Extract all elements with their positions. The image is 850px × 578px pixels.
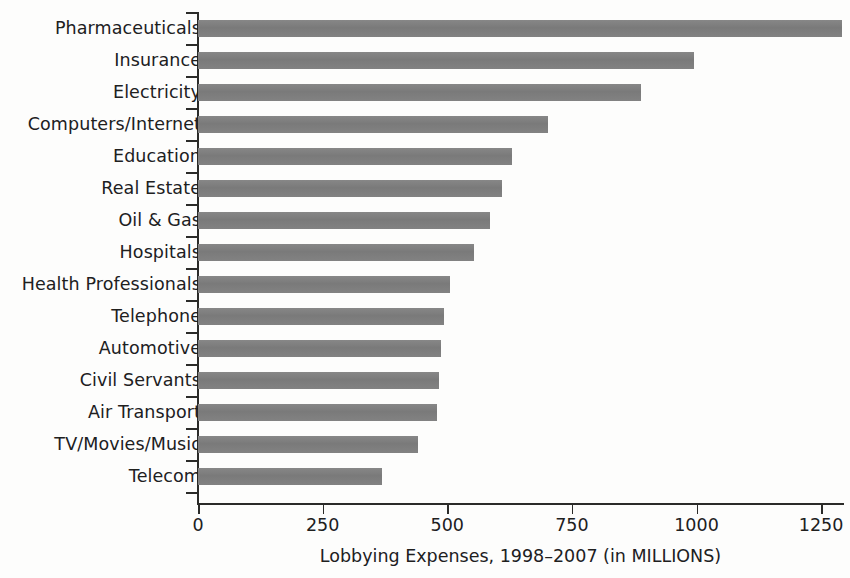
y-axis-tick — [186, 44, 198, 46]
y-axis-tick — [186, 236, 198, 238]
bar — [198, 52, 694, 69]
x-axis-tick — [697, 503, 699, 514]
y-axis-tick — [186, 396, 198, 398]
bar — [198, 468, 382, 485]
y-axis-tick — [186, 492, 198, 494]
category-label: Pharmaceuticals — [55, 12, 201, 44]
category-label: Insurance — [114, 44, 201, 76]
bar-row: Oil & Gas — [0, 204, 850, 236]
y-axis-tick — [186, 300, 198, 302]
x-axis-tick — [447, 503, 449, 514]
bar — [198, 212, 490, 229]
y-axis-tick — [186, 428, 198, 430]
y-axis-tick — [186, 76, 198, 78]
category-label: Electricity — [113, 76, 201, 108]
category-label: Computers/Internet — [28, 108, 201, 140]
bar-row: Telecom — [0, 460, 850, 492]
bar — [198, 244, 474, 261]
bar — [198, 148, 512, 165]
category-label: Automotive — [99, 332, 201, 364]
y-axis-tick — [186, 108, 198, 110]
bar-row: Computers/Internet — [0, 108, 850, 140]
category-label: Air Transport — [88, 396, 201, 428]
bar — [198, 116, 548, 133]
x-axis-tick-label: 750 — [555, 515, 588, 535]
category-label: Real Estate — [101, 172, 201, 204]
bar — [198, 436, 418, 453]
lobbying-expenses-bar-chart: PharmaceuticalsInsuranceElectricityCompu… — [0, 0, 850, 578]
bar-row: Education — [0, 140, 850, 172]
bar-row: Electricity — [0, 76, 850, 108]
category-label: Civil Servants — [80, 364, 201, 396]
x-axis-tick — [198, 503, 200, 514]
x-axis-tick — [821, 503, 823, 514]
bar — [198, 84, 641, 101]
plot-area: PharmaceuticalsInsuranceElectricityCompu… — [0, 0, 850, 578]
x-axis-tick-label: 500 — [431, 515, 464, 535]
bar — [198, 340, 441, 357]
category-label: Education — [113, 140, 201, 172]
y-axis-tick — [186, 172, 198, 174]
bar-row: Insurance — [0, 44, 850, 76]
y-axis-tick — [186, 12, 198, 14]
x-axis-tick — [572, 503, 574, 514]
y-axis-tick — [186, 268, 198, 270]
category-label: Oil & Gas — [118, 204, 201, 236]
bar — [198, 404, 437, 421]
bar — [198, 308, 444, 325]
bar-row: Automotive — [0, 332, 850, 364]
y-axis-tick — [186, 204, 198, 206]
x-axis-title: Lobbying Expenses, 1998–2007 (in MILLION… — [197, 546, 844, 566]
category-label: Telecom — [129, 460, 201, 492]
x-axis-line — [197, 503, 844, 505]
bar — [198, 180, 502, 197]
category-label: Telephone — [111, 300, 201, 332]
y-axis-tick — [186, 364, 198, 366]
bar — [198, 372, 439, 389]
y-axis-tick — [186, 140, 198, 142]
bar-row: Hospitals — [0, 236, 850, 268]
category-label: TV/Movies/Music — [54, 428, 201, 460]
bar-row: Real Estate — [0, 172, 850, 204]
y-axis-tick — [186, 332, 198, 334]
bar-row: Telephone — [0, 300, 850, 332]
x-axis-tick-label: 0 — [192, 515, 203, 535]
x-axis-tick-label: 1250 — [799, 515, 844, 535]
category-label: Health Professionals — [22, 268, 201, 300]
bar-row: Civil Servants — [0, 364, 850, 396]
bar-row: Air Transport — [0, 396, 850, 428]
bar-row: Pharmaceuticals — [0, 12, 850, 44]
x-axis-tick-label: 250 — [306, 515, 339, 535]
bar-row: Health Professionals — [0, 268, 850, 300]
bar-row: TV/Movies/Music — [0, 428, 850, 460]
x-axis-tick — [323, 503, 325, 514]
x-axis-tick-label: 1000 — [674, 515, 719, 535]
category-label: Hospitals — [120, 236, 201, 268]
bar — [198, 20, 842, 37]
y-axis-tick — [186, 460, 198, 462]
bar — [198, 276, 450, 293]
